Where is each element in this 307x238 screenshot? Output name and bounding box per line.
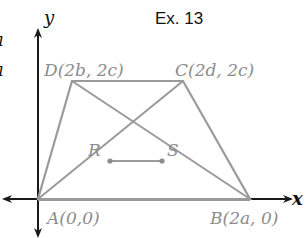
- point-r: [107, 158, 112, 163]
- y-axis-label: y: [43, 7, 55, 28]
- label-a: A(0,0): [45, 208, 100, 228]
- trapezoid-diagram: Ex. 13 a a y x D(2b, 2c) C(2d, 2c) R S A…: [0, 0, 307, 238]
- x-axis-label: x: [291, 188, 303, 209]
- label-b: B(2a, 0): [209, 208, 278, 228]
- title-label: Ex. 13: [155, 9, 203, 28]
- point-s: [159, 158, 164, 163]
- label-d: D(2b, 2c): [43, 60, 124, 80]
- trapezoid-abcd: [38, 81, 250, 199]
- cropped-text-1: a: [0, 29, 4, 50]
- label-r: R: [87, 140, 101, 160]
- label-c: C(2d, 2c): [175, 60, 254, 80]
- cropped-text-2: a: [0, 59, 4, 80]
- label-s: S: [167, 140, 179, 160]
